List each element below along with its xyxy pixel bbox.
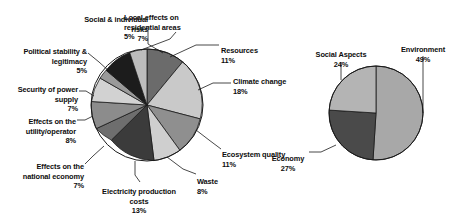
- right-pie-chart: [329, 66, 423, 160]
- callout-name: Environment: [401, 45, 445, 54]
- callout-environment: Environment 49%: [386, 36, 456, 74]
- callout-name: Security of power supply: [18, 85, 78, 103]
- callout-pct: 24%: [296, 60, 386, 69]
- callout-name: Effects on the national economy: [23, 162, 84, 180]
- pie-slice-economy[interactable]: [329, 110, 376, 160]
- leader-effects-national-economy: [85, 146, 104, 164]
- callout-economy: Economy 27%: [264, 145, 312, 183]
- callout-name: Political stability & legitimacy: [23, 47, 87, 65]
- callout-pct: 8%: [197, 187, 241, 196]
- callout-waste: Waste 8%: [197, 168, 241, 206]
- callout-effects-utility-operator: Effects on the utility/operator 8%: [2, 108, 76, 155]
- callout-name: Local effects on residential areas: [124, 13, 181, 31]
- callout-pct: 5%: [3, 66, 87, 75]
- callout-name: Climate change: [233, 77, 286, 86]
- callout-name: Waste: [197, 177, 218, 186]
- callout-pct: 8%: [2, 136, 76, 145]
- left-pie-chart: [91, 49, 203, 161]
- leader-waste: [167, 157, 196, 174]
- callout-pct: 11%: [221, 56, 291, 65]
- callout-effects-national-economy: Effects on the national economy 7%: [2, 153, 84, 200]
- callout-pct: 49%: [386, 55, 456, 64]
- callout-pct: 5%: [124, 32, 228, 41]
- callout-name: Social Aspects: [316, 50, 367, 59]
- figure-two-pie-charts: Social & individual risks 7% Local effec…: [0, 0, 456, 214]
- callout-social-aspects: Social Aspects 24%: [296, 41, 386, 79]
- callout-pct: 13%: [78, 206, 200, 214]
- leader-political-stability: [88, 53, 110, 72]
- callout-pct: 27%: [264, 164, 312, 173]
- callout-local-effects-residential: Local effects on residential areas 5%: [124, 4, 228, 51]
- callout-name: Electricity production costs: [102, 187, 176, 205]
- callout-pct: 18%: [233, 87, 317, 96]
- callout-name: Effects on the utility/operator: [26, 117, 76, 135]
- leader-ecosystem-quality: [196, 130, 221, 149]
- callout-electricity-production-costs: Electricity production costs 13%: [78, 178, 200, 214]
- callout-pct: 7%: [2, 181, 84, 190]
- callout-name: Resources: [221, 46, 258, 55]
- pie-slice-environment[interactable]: [373, 66, 423, 160]
- leader-effects-utility-operator: [77, 116, 93, 120]
- callout-name: Economy: [272, 154, 305, 163]
- leader-economy: [309, 145, 336, 152]
- leader-climate-change: [198, 83, 231, 90]
